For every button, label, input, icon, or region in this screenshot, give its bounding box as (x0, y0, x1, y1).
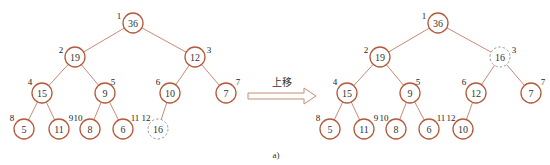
tree-before: 3611921231549510677581198106111612 (10, 11, 241, 139)
figure-caption: a) (273, 150, 280, 160)
tree-edge (386, 65, 403, 86)
node-index: 10 (380, 113, 390, 123)
node-index: 10 (74, 113, 84, 123)
node-index: 5 (416, 77, 421, 87)
tree-edge (351, 102, 359, 120)
tree-edge (354, 64, 373, 85)
tree-edge (400, 102, 407, 119)
tree-edge (81, 65, 98, 86)
node-index: 11 (437, 113, 446, 123)
tree-edge (84, 28, 125, 52)
tree-edge (466, 102, 472, 119)
tree-edge (49, 64, 68, 85)
heap-node: 106 (156, 77, 180, 103)
node-value: 11 (54, 124, 64, 135)
node-index: 7 (541, 77, 546, 87)
heap-node: 58 (316, 113, 340, 139)
node-index: 2 (364, 45, 369, 55)
tree-edge (482, 65, 495, 84)
tree-after: 3611921631549512677581198106111012 (316, 11, 546, 139)
node-index: 9 (374, 113, 379, 123)
heap-node: 119 (49, 113, 74, 139)
arrow-icon (248, 88, 316, 104)
node-index: 1 (117, 11, 122, 21)
node-index: 6 (156, 77, 161, 87)
node-index: 2 (59, 45, 64, 55)
node-index: 4 (28, 77, 33, 87)
heap-node: 126 (462, 77, 486, 103)
node-value: 6 (427, 124, 432, 135)
node-value: 8 (394, 124, 399, 135)
tree-edge (28, 102, 37, 120)
tree-edge (109, 102, 118, 120)
node-index: 6 (462, 77, 467, 87)
node-index: 12 (142, 113, 151, 123)
node-value: 19 (70, 52, 80, 63)
node-index: 11 (131, 113, 140, 123)
node-value: 36 (433, 18, 443, 29)
heap-node: 123 (185, 45, 212, 67)
heap-diagram: 3611921231549510677581198106111612 上移 36… (0, 0, 550, 165)
shift-up-arrow: 上移 (248, 76, 316, 104)
node-index: 8 (10, 113, 15, 123)
heap-node: 1012 (447, 113, 474, 139)
node-value: 19 (375, 52, 385, 63)
tree-edge (334, 102, 342, 120)
node-index: 7 (236, 77, 241, 87)
heap-node: 77 (521, 77, 546, 103)
heap-node: 192 (364, 45, 390, 67)
tree-edge (161, 102, 167, 119)
tree-edge (447, 28, 491, 52)
node-index: 8 (316, 113, 321, 123)
heap-node: 810 (74, 113, 101, 139)
node-index: 5 (111, 77, 116, 87)
heap-node: 1612 (142, 113, 169, 139)
tree-edge (46, 102, 54, 120)
node-index: 12 (447, 113, 456, 123)
node-value: 6 (121, 124, 126, 135)
heap-node: 810 (380, 113, 407, 139)
node-value: 16 (495, 52, 505, 63)
heap-node: 95 (95, 77, 116, 103)
tree-edge (507, 65, 525, 86)
tree-edge (142, 28, 186, 52)
arrow-label: 上移 (272, 76, 292, 88)
heap-node: 119 (354, 113, 379, 139)
node-value: 8 (88, 124, 93, 135)
node-index: 1 (422, 11, 427, 21)
tree-edge (389, 28, 430, 52)
node-value: 9 (103, 88, 108, 99)
node-index: 3 (512, 45, 517, 55)
heap-node: 154 (333, 77, 357, 103)
heap-node: 163 (490, 45, 517, 67)
node-value: 9 (408, 88, 413, 99)
tree-edge (176, 65, 190, 85)
node-value: 16 (153, 124, 163, 135)
tree-edge (94, 102, 101, 120)
node-value: 12 (471, 88, 481, 99)
node-value: 15 (342, 88, 352, 99)
node-index: 4 (333, 77, 338, 87)
tree-edge (202, 65, 220, 86)
heap-node: 95 (400, 77, 421, 103)
node-value: 10 (458, 124, 468, 135)
node-value: 12 (190, 52, 200, 63)
node-value: 36 (128, 18, 138, 29)
node-value: 5 (22, 124, 27, 135)
heap-node: 154 (28, 77, 52, 103)
node-value: 11 (359, 124, 369, 135)
heap-node: 77 (216, 77, 241, 103)
tree-edge (415, 102, 425, 120)
node-index: 3 (207, 45, 212, 55)
node-value: 7 (529, 88, 534, 99)
heap-node: 192 (59, 45, 85, 67)
node-value: 10 (165, 88, 175, 99)
node-value: 15 (37, 88, 47, 99)
node-value: 5 (328, 124, 333, 135)
node-value: 7 (224, 88, 229, 99)
